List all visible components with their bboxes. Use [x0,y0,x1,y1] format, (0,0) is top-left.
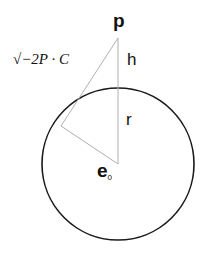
point-p-label: p [113,10,125,32]
radius-label: r [126,110,132,130]
center-label-subscript: 0 [108,173,112,182]
diagram-canvas [0,0,213,263]
tangent-length-label: √−2P · C [13,51,69,68]
center-label: e0 [97,160,112,182]
radius-to-tangent-line [61,126,118,164]
tangent-line [61,38,118,126]
height-label: h [127,50,136,70]
center-label-main: e [97,160,108,181]
